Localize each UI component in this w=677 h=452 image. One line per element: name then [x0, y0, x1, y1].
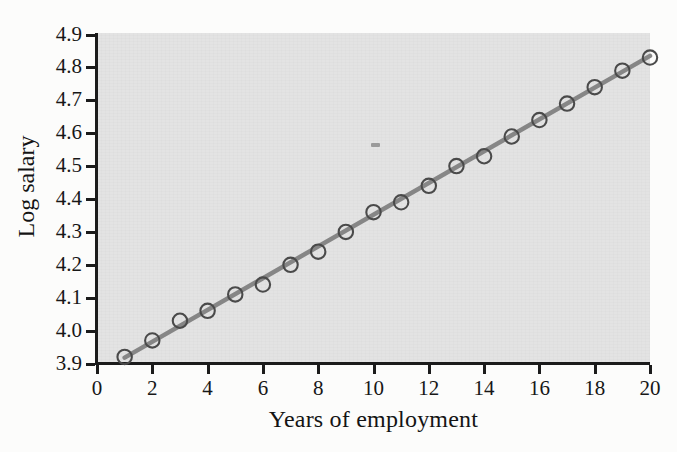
data-layer	[0, 0, 677, 452]
x-axis-label: Years of employment	[97, 406, 650, 433]
figure-canvas: 02468101214161820 3.94.04.14.24.34.44.54…	[0, 0, 677, 452]
y-axis-label: Log salary	[13, 97, 40, 277]
regression-line	[125, 56, 650, 358]
